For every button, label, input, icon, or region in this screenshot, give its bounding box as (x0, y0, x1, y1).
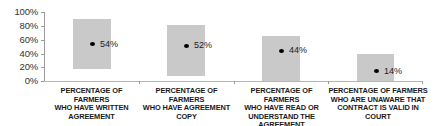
range-box-read-understand (262, 36, 300, 81)
y-tick-label-0: 0% (0, 76, 38, 86)
point-marker-icon (184, 44, 189, 48)
x-tick-mark (234, 81, 235, 84)
category-label-written-agreement: PERCENTAGE OF FARMERS WHO HAVE WRITTEN A… (44, 87, 139, 121)
point-marker-icon (279, 49, 284, 53)
y-tick-mark (41, 26, 44, 27)
y-tick-label-100: 100% (0, 7, 38, 17)
x-tick-mark (139, 81, 140, 84)
point-marker-icon (90, 42, 95, 46)
category-label-unaware-court: PERCENTAGE OF FARMERS WHO ARE UNAWARE TH… (326, 87, 430, 121)
range-box-agreement-copy (167, 25, 205, 76)
category-label-line: PERCENTAGE OF FARMERS (139, 87, 234, 104)
category-label-line: COPY (139, 113, 234, 122)
category-label-agreement-copy: PERCENTAGE OF FARMERS WHO HAVE AGREEMENT… (139, 87, 234, 121)
value-label-unaware-court: 14% (384, 66, 402, 76)
category-label-line: AGREEMENT (234, 121, 329, 126)
y-tick-mark (41, 54, 44, 55)
x-tick-mark (422, 81, 423, 84)
y-tick-label-80: 80% (0, 21, 38, 31)
category-label-line: PERCENTAGE OF FARMERS (234, 87, 329, 104)
category-label-line: CONTRACT IS VALID IN COURT (326, 104, 430, 121)
value-label-read-understand: 44% (289, 45, 307, 55)
point-marker-icon (374, 69, 379, 73)
y-tick-label-60: 60% (0, 35, 38, 45)
y-tick-mark (41, 40, 44, 41)
x-tick-mark (328, 81, 329, 84)
category-label-line: AGREEMENT (44, 113, 139, 122)
category-label-read-understand: PERCENTAGE OF FARMERS WHO HAVE READ OR U… (234, 87, 329, 126)
value-label-written-agreement: 54% (100, 39, 118, 49)
y-tick-label-40: 40% (0, 49, 38, 59)
range-chart: 100% 80% 60% 40% 20% 0% 54% 52% 44% 14% … (0, 0, 446, 126)
y-tick-mark (41, 12, 44, 13)
category-label-line: PERCENTAGE OF FARMERS (44, 87, 139, 104)
y-tick-label-20: 20% (0, 62, 38, 72)
value-label-agreement-copy: 52% (194, 40, 212, 50)
y-axis-line (44, 12, 45, 81)
y-tick-mark (41, 67, 44, 68)
